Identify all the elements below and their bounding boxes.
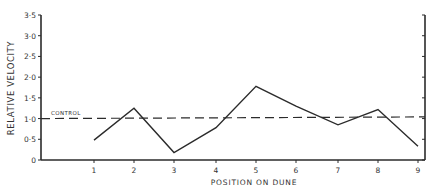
y-tick-label: 2·0 [24,73,36,82]
y-axis-label: RELATIVE VELOCITY [6,41,16,135]
x-axis-ticks: 123456789 [92,160,421,175]
x-tick-label: 3 [172,166,177,175]
x-axis-label: POSITION ON DUNE [211,178,297,187]
x-tick-label: 2 [132,166,137,175]
y-tick-label: 0 [31,156,36,165]
y-axis-ticks: 00·51·01·52·02·53·03·5 [24,11,425,165]
x-tick-label: 6 [294,166,299,175]
data-series [94,86,418,152]
x-tick-label: 7 [336,166,341,175]
x-tick-label: 1 [92,166,97,175]
y-tick-label: 1·5 [24,94,36,103]
control-label: CONTROL [51,110,81,116]
x-tick-label: 8 [376,166,381,175]
y-tick-label: 2·5 [24,52,36,61]
y-tick-label: 0·5 [24,135,36,144]
axes [41,15,425,160]
line-chart: 00·51·01·52·02·53·03·5 123456789 CONTROL… [0,0,434,193]
y-tick-label: 3·0 [24,32,36,41]
y-tick-label: 1·0 [24,115,36,124]
y-tick-label: 3·5 [24,11,36,20]
x-tick-label: 4 [214,166,219,175]
velocity-line [94,86,418,152]
x-tick-label: 5 [254,166,259,175]
x-tick-label: 9 [416,166,421,175]
